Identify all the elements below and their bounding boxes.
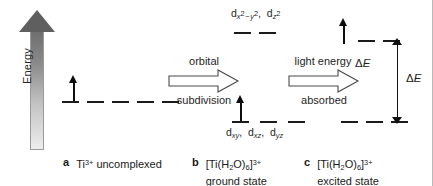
caption-b: b[Ti(H2O)6]3+ground state [192,156,267,186]
caption-b-line2: ground state [206,175,267,186]
panel-b-eg-levels [234,28,294,40]
caption-c-text: [Ti(H2O)6]3+excited state [317,156,379,186]
caption-a-letter: a [63,156,69,168]
orbital-level-b-t2g-3 [288,121,305,123]
orbital-level-b-t2g-2 [260,121,277,123]
orbital-level-b-eg-2 [259,32,276,34]
energy-axis-label: Energy [21,36,33,96]
caption-c: c[Ti(H2O)6]3+excited state [304,156,379,186]
delta-e-measure [392,38,404,124]
caption-b-text: [Ti(H2O)6]3+ground state [206,156,267,186]
orbital-level-c-t2g-2 [366,121,383,123]
caption-a: aTi3+ uncomplexed [63,156,162,172]
orbital-level-a-2 [87,101,104,103]
electron-spin-up [68,75,79,101]
orbital-level-b-eg-1 [234,32,251,34]
caption-c-letter: c [304,156,310,168]
orbital-level-c-eg-1 [358,40,375,42]
orbital-level-a-3 [112,101,129,103]
energy-arrow-head [19,10,55,32]
electron-spin-up [235,95,246,121]
light-absorption-arrow [288,68,360,94]
orbital-level-b-t2g-1 [232,121,249,123]
orbital-level-a-1 [62,101,79,103]
delta-e-arrow-head-down [392,117,402,124]
delta-e-arrow-line [397,44,398,118]
t2g-orbital-label: dxy, dxz, dyz [226,126,283,140]
caption-c-line2: excited state [317,175,379,186]
panel-c-eg-levels [330,18,390,48]
figure-canvas: Energy orbital subdivision dx2 − y2, dz2 [0,0,432,186]
panel-c-t2g-levels [341,100,431,126]
light-absorption-top-label: light energy [286,55,360,67]
caption-b-letter: b [192,156,199,168]
electron-spin-up [338,18,349,44]
eg-orbital-label: dx2 − y2, dz2 [231,7,280,21]
orbital-subdivision-top-label: orbital [172,55,236,67]
orbital-subdivision-arrow [168,68,240,94]
caption-a-text: Ti3+ uncomplexed [76,156,162,172]
energy-axis: Energy [16,8,56,150]
orbital-level-c-t2g-1 [341,121,358,123]
orbital-level-a-4 [137,101,154,103]
light-absorption-delta-e-label: ΔE [355,57,370,69]
delta-e-measure-label: ΔE [406,72,421,84]
panel-a-levels [58,80,168,110]
